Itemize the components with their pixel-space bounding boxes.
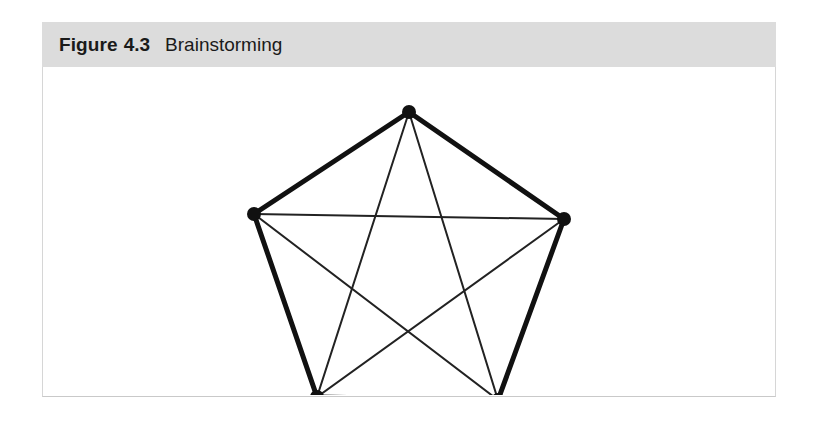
graph-diagonal-edge	[317, 112, 409, 395]
graph-perimeter-edge	[409, 112, 564, 219]
graph-diagonal-edge	[254, 214, 498, 395]
figure-block: Figure 4.3 Brainstorming	[42, 22, 776, 397]
graph-perimeter-edge	[498, 219, 564, 395]
graph-node	[247, 207, 261, 221]
figure-number: 4.3	[124, 34, 150, 56]
graph-diagonal-edge	[317, 219, 564, 395]
figure-caption: Brainstorming	[165, 34, 282, 56]
graph-diagonal-edge	[409, 112, 498, 395]
complete-graph-diagram	[43, 67, 775, 395]
graph-node	[557, 212, 571, 226]
graph-perimeter-edge	[254, 112, 409, 214]
graph-diagonal-edge	[254, 214, 564, 219]
figure-label: Figure	[59, 34, 118, 56]
graph-node	[310, 390, 324, 395]
graph-perimeter-edge	[254, 214, 317, 395]
figure-header: Figure 4.3 Brainstorming	[42, 22, 776, 67]
figure-body	[42, 67, 776, 397]
graph-node	[402, 105, 416, 119]
